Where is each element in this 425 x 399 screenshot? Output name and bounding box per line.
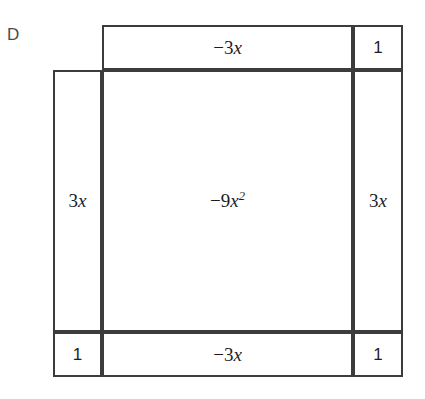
cell-label-center: −9x2 [210, 191, 245, 211]
area-model-cell-bottom-left: 1 [53, 332, 102, 377]
area-model-diagram: −3x 1 3x −9x2 3x 1 −3x 1 [0, 0, 425, 399]
area-model-cell-bottom-right: 1 [353, 332, 403, 377]
area-model-cell-center: −9x2 [102, 70, 353, 332]
cell-label-bottom-right: 1 [373, 345, 382, 365]
area-model-cell-top-right: 1 [353, 25, 403, 70]
area-model-cell-middle-left: 3x [53, 70, 102, 332]
area-model-cell-bottom-middle: −3x [102, 332, 353, 377]
cell-label-top-right: 1 [373, 38, 382, 58]
area-model-cell-middle-right: 3x [353, 70, 403, 332]
cell-label-middle-left: 3x [69, 191, 87, 211]
cell-label-middle-right: 3x [369, 191, 387, 211]
cell-label-bottom-middle: −3x [213, 345, 242, 365]
cell-label-bottom-left: 1 [73, 345, 82, 365]
area-model-cell-top-middle: −3x [102, 25, 353, 70]
cell-label-top-middle: −3x [213, 38, 242, 58]
